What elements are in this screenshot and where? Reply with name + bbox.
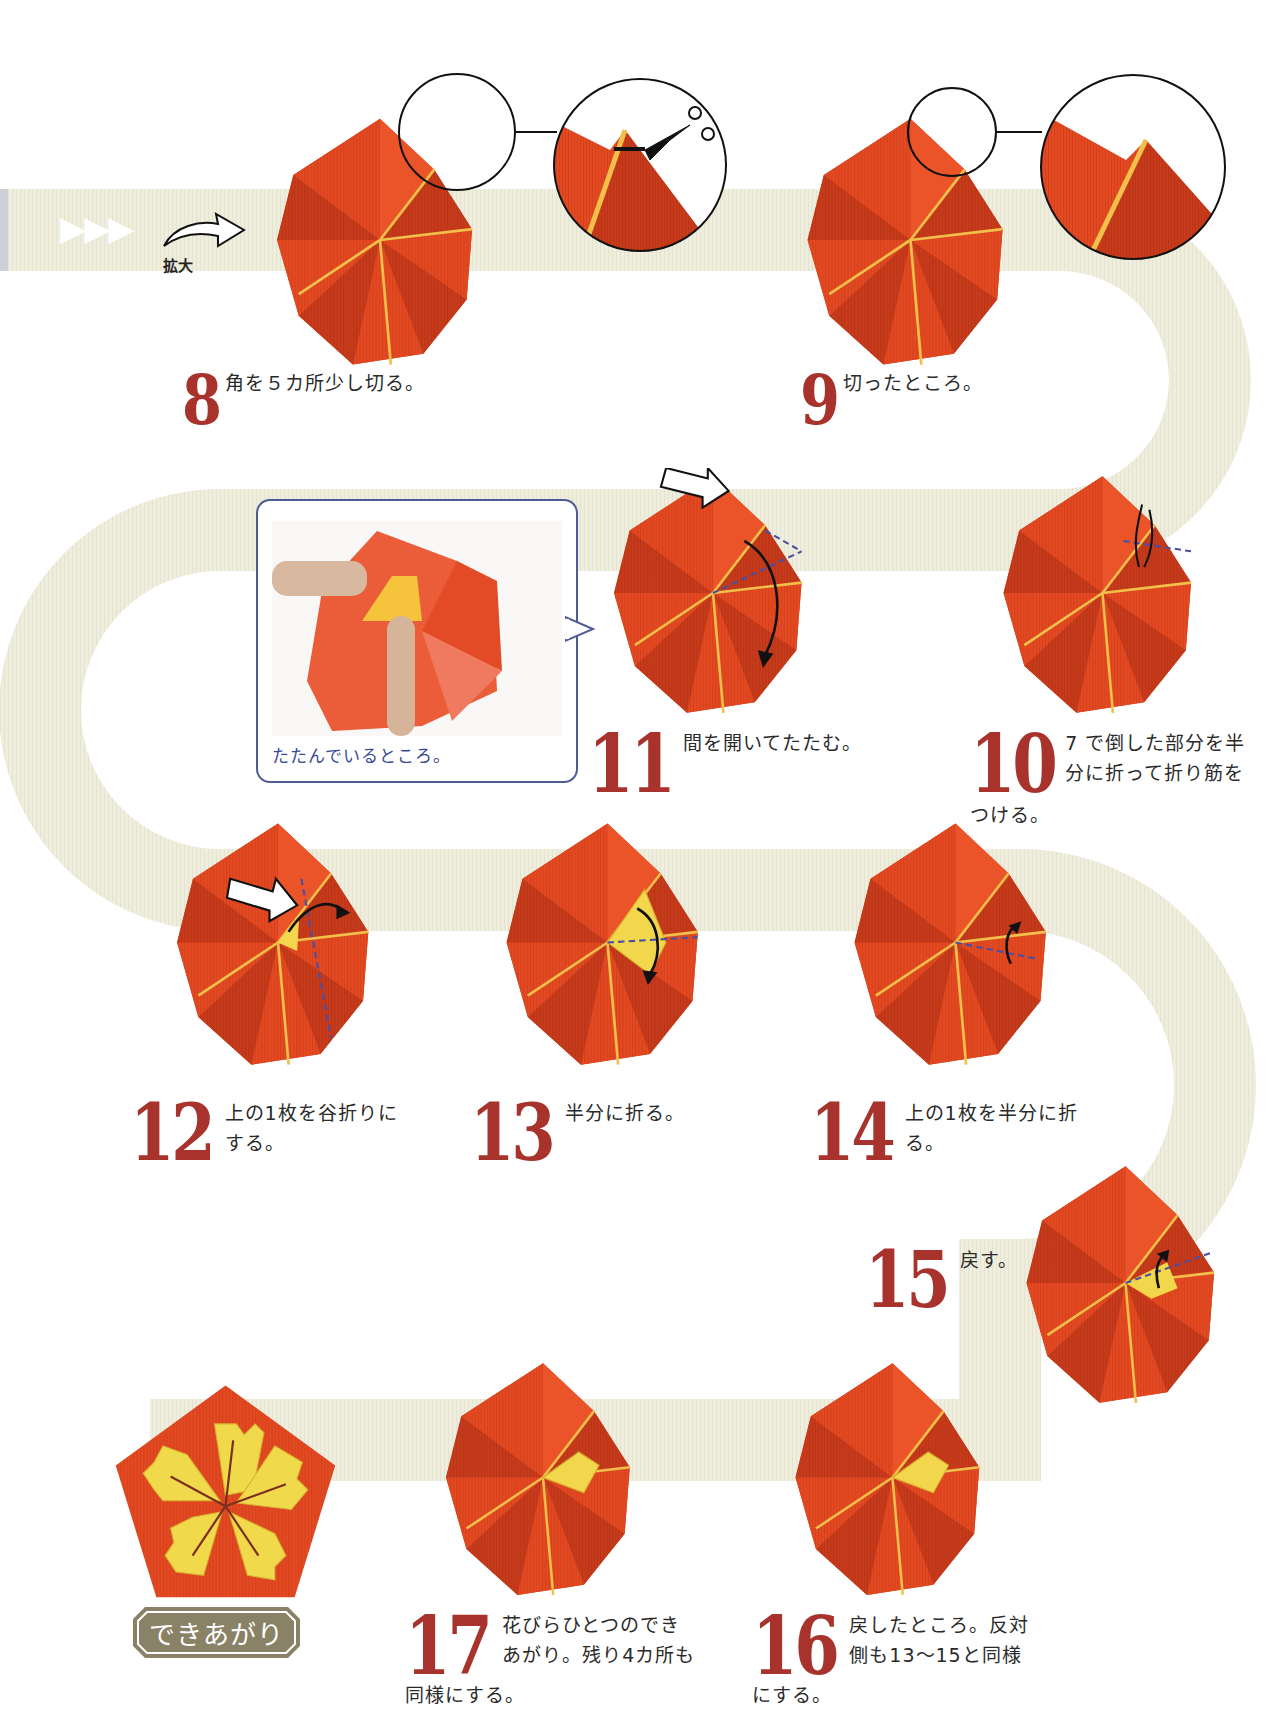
step-text: 角を５カ所少し切る。 bbox=[225, 368, 425, 398]
step-17-continuation: 同様にする。 bbox=[405, 1680, 525, 1707]
step-number: 16 bbox=[752, 1610, 837, 1682]
curved-arrow-icon bbox=[160, 210, 250, 260]
step-11: 11 間を開いてたたむ。 bbox=[588, 728, 862, 800]
step-text-line-2: あがり。残り4カ所も bbox=[502, 1640, 695, 1670]
finished-badge: できあがり bbox=[133, 1607, 300, 1658]
step-16-figure bbox=[765, 1355, 1020, 1600]
step-10-figure bbox=[980, 468, 1225, 718]
step-text-line-1: 花びらひとつのでき bbox=[502, 1610, 695, 1640]
step-17-figure bbox=[418, 1355, 668, 1600]
step-number: 17 bbox=[405, 1610, 490, 1682]
step-12: 12 上の1枚を谷折りに する。 bbox=[130, 1098, 398, 1168]
step-text-line-2: 側も13～15と同様 bbox=[849, 1640, 1029, 1670]
zoom-label: 拡大 bbox=[163, 254, 193, 275]
step-number: 13 bbox=[470, 1098, 552, 1168]
step-text-line-1: 戻したところ。反対 bbox=[849, 1610, 1029, 1640]
step-15: 15 戻す。 bbox=[865, 1245, 1018, 1315]
step-12-figure bbox=[153, 815, 403, 1070]
folding-photo bbox=[272, 521, 562, 736]
step-text-line-2: る。 bbox=[905, 1128, 1078, 1158]
step-9: 9 切ったところ。 bbox=[800, 368, 983, 431]
magnify-circle-large-done bbox=[1036, 70, 1231, 265]
step-11-figure bbox=[588, 468, 838, 718]
step-text: 半分に折る。 bbox=[565, 1098, 685, 1128]
step-number: 12 bbox=[130, 1098, 212, 1168]
step-15-figure bbox=[998, 1158, 1253, 1408]
step-text-line-1: 7 で倒した部分を半 bbox=[1065, 728, 1245, 758]
step-16: 16 戻したところ。反対 側も13～15と同様 bbox=[752, 1610, 1029, 1682]
intro-arrows: ▶▶▶ bbox=[60, 208, 132, 248]
step-number: 15 bbox=[865, 1245, 947, 1315]
step-8: 8 角を５カ所少し切る。 bbox=[182, 368, 425, 431]
step-17: 17 花びらひとつのでき あがり。残り4カ所も bbox=[405, 1610, 695, 1682]
finished-pentagon-figure bbox=[108, 1380, 343, 1605]
finished-label: できあがり bbox=[133, 1607, 300, 1658]
step-14-figure bbox=[828, 815, 1083, 1070]
step-text: 切ったところ。 bbox=[843, 368, 983, 398]
step-number: 11 bbox=[588, 728, 673, 800]
step-text-line-1: 上の1枚を半分に折 bbox=[905, 1098, 1078, 1128]
magnify-circle-large-cut bbox=[550, 70, 730, 260]
step-text: 戻す。 bbox=[960, 1245, 1018, 1275]
step-text: 間を開いてたたむ。 bbox=[683, 728, 862, 758]
photo-bubble: たたんでいるところ。 bbox=[256, 499, 578, 783]
magnify-circle-small-2 bbox=[905, 85, 1000, 180]
step-16-continuation: にする。 bbox=[752, 1680, 832, 1707]
step-number: 9 bbox=[800, 368, 837, 431]
step-13: 13 半分に折る。 bbox=[470, 1098, 685, 1168]
step-text-line-2: 分に折って折り筋を bbox=[1065, 758, 1245, 788]
magnify-circle-small bbox=[395, 70, 520, 195]
step-text-line-2: する。 bbox=[225, 1128, 398, 1158]
step-13-figure bbox=[485, 815, 730, 1070]
step-10: 10 7 で倒した部分を半 分に折って折り筋を bbox=[970, 728, 1245, 800]
step-number: 8 bbox=[182, 368, 219, 431]
photo-caption: たたんでいるところ。 bbox=[272, 742, 451, 767]
step-number: 14 bbox=[810, 1098, 892, 1168]
step-number: 10 bbox=[970, 728, 1055, 800]
step-text-line-1: 上の1枚を谷折りに bbox=[225, 1098, 398, 1128]
